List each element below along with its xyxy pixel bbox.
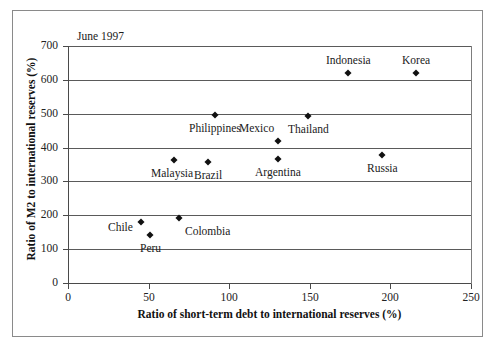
chart-annotation-date: June 1997 [77, 31, 124, 43]
data-point-label-peru: Peru [140, 243, 161, 255]
x-tick-mark-150 [310, 284, 311, 289]
data-point-label-russia: Russia [367, 163, 398, 175]
y-tick-mark-100 [63, 249, 68, 250]
y-axis-title: Ratio of M2 to international reserves (%… [25, 41, 37, 278]
y-tick-mark-300 [63, 181, 68, 182]
y-tick-label-200: 200 [41, 209, 58, 221]
y-tick-label-600: 600 [41, 74, 58, 86]
data-point-label-indonesia: Indonesia [326, 55, 371, 67]
data-point-label-chile: Chile [108, 222, 133, 234]
y-tick-label-100: 100 [41, 243, 58, 255]
y-tick-label-700: 700 [41, 40, 58, 52]
x-tick-label-250: 250 [462, 292, 479, 304]
x-tick-mark-200 [390, 284, 391, 289]
x-tick-label-100: 100 [220, 292, 237, 304]
x-axis-title: Ratio of short-term debt to internationa… [68, 308, 471, 320]
y-tick-mark-400 [63, 148, 68, 149]
y-axis-line [68, 46, 69, 284]
y-tick-mark-500 [63, 114, 68, 115]
x-tick-label-50: 50 [143, 292, 155, 304]
gridline-y-700 [68, 46, 471, 47]
gridline-y-200 [68, 215, 471, 216]
y-tick-label-400: 400 [41, 142, 58, 154]
x-tick-mark-100 [229, 284, 230, 289]
x-tick-label-150: 150 [301, 292, 318, 304]
data-point-label-brazil: Brazil [194, 170, 222, 182]
x-tick-mark-0 [68, 284, 69, 289]
y-tick-mark-200 [63, 215, 68, 216]
data-point-label-thailand: Thailand [288, 124, 329, 136]
y-tick-label-0: 0 [52, 277, 58, 289]
x-tick-mark-250 [471, 284, 472, 289]
y-tick-label-300: 300 [41, 175, 58, 187]
data-point-label-argentina: Argentina [255, 167, 301, 179]
scatter-chart-figure: 0100200300400500600700 050100150200250 C… [0, 0, 492, 347]
x-tick-mark-50 [149, 284, 150, 289]
y-tick-mark-700 [63, 46, 68, 47]
y-tick-mark-600 [63, 80, 68, 81]
plot-right-edge [471, 46, 472, 284]
gridline-y-500 [68, 114, 471, 115]
gridline-y-300 [68, 181, 471, 182]
data-point-label-malaysia: Malaysia [151, 168, 193, 180]
x-axis-line [68, 283, 472, 284]
data-point-label-colombia: Colombia [185, 226, 230, 238]
x-tick-label-0: 0 [65, 292, 71, 304]
gridline-y-400 [68, 148, 471, 149]
data-point-label-philippines: Philippines [189, 123, 241, 135]
gridline-y-100 [68, 249, 471, 250]
plot-area [68, 46, 471, 283]
data-point-label-korea: Korea [402, 55, 430, 67]
gridline-y-600 [68, 80, 471, 81]
y-tick-label-500: 500 [41, 108, 58, 120]
data-point-label-mexico: Mexico [239, 123, 274, 135]
x-tick-label-200: 200 [381, 292, 398, 304]
